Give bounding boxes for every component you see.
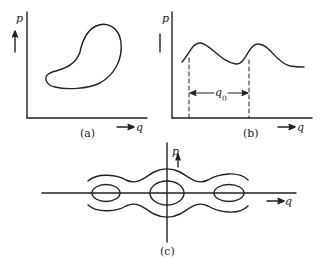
- panel-a: [13, 12, 148, 130]
- panel-b: [160, 12, 312, 130]
- panel-b-caption: (b): [243, 127, 259, 140]
- panel-c-x-axis-label: q: [285, 195, 292, 208]
- panel-c-q-arrow-icon: [267, 199, 284, 204]
- panel-a-y-axis-label: p: [16, 12, 23, 25]
- panel-a-x-axis-label: q: [136, 121, 143, 134]
- panel-b-q-arrow-icon: [278, 125, 295, 130]
- panel-b-y-axis-label: p: [162, 12, 169, 25]
- panel-a-p-arrow-icon: [13, 31, 18, 52]
- panel-b-x-axis-label: q: [297, 121, 304, 134]
- panel-c-outer-trajectory-upper: [88, 169, 248, 182]
- panel-c-caption: (c): [160, 245, 175, 258]
- panel-b-periodic-curve: [182, 43, 304, 67]
- panel-c-y-axis-label: p: [172, 145, 179, 158]
- panel-a-caption: (a): [80, 127, 95, 140]
- panel-c: [42, 143, 296, 242]
- panel-a-q-arrow-icon: [117, 125, 134, 130]
- panel-b-period-label: q: [215, 86, 222, 99]
- panel-b-period-subscript: 0: [222, 94, 227, 103]
- panel-a-closed-orbit: [46, 24, 121, 88]
- phase-space-figure: p q (a) p q (b) q 0 p q (c): [0, 0, 320, 267]
- panel-c-outer-trajectory-lower: [88, 204, 248, 217]
